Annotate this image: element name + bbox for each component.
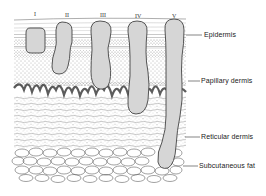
level-label-iii: III [100,12,106,19]
reticular-dermis-layer [14,96,186,148]
level-i-column [26,28,45,53]
level-iv-column [128,21,149,114]
label-papillary-dermis: Papillary dermis [201,77,252,85]
level-iii-column [91,21,111,89]
label-epidermis: Epidermis [204,31,236,39]
level-label-ii: II [65,12,69,19]
level-label-v: V [172,13,176,20]
level-label-iv: IV [135,13,141,20]
level-label-i: I [34,11,36,18]
label-reticular-dermis: Reticular dermis [201,133,253,141]
label-subcutaneous-fat: Subcutaneous fat [199,162,255,170]
